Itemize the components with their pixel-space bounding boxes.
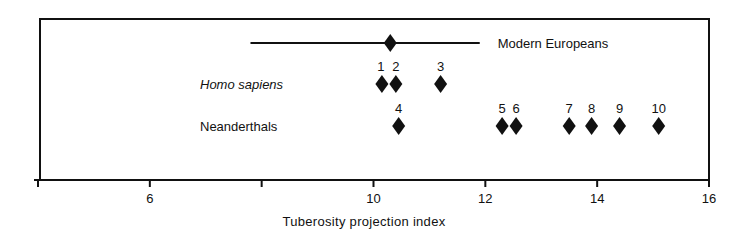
diamond-marker	[563, 117, 576, 135]
diamond-marker	[375, 75, 388, 93]
diamond-marker	[392, 117, 405, 135]
tuberosity-chart: 610121416 Modern EuropeansHomo sapiens12…	[0, 0, 751, 247]
x-axis: 610121416	[34, 180, 716, 206]
x-tick-label: 12	[478, 191, 492, 206]
point-number-label: 8	[588, 101, 595, 116]
series-label: Modern Europeans	[498, 36, 609, 51]
point-number-label: 9	[616, 101, 623, 116]
point-number-label: 10	[651, 101, 665, 116]
diamond-marker	[389, 75, 402, 93]
point-number-label: 4	[395, 101, 402, 116]
series-label: Neanderthals	[200, 119, 278, 134]
point-number-label: 7	[566, 101, 573, 116]
diamond-marker	[585, 117, 598, 135]
series-modern-europeans: Modern Europeans	[250, 34, 608, 52]
series-neanderthals: Neanderthals45678910	[200, 101, 666, 135]
diamond-marker	[496, 117, 509, 135]
point-number-label: 3	[437, 59, 444, 74]
diamond-marker	[652, 117, 665, 135]
diamond-marker	[434, 75, 447, 93]
diamond-marker	[613, 117, 626, 135]
mean-diamond-marker	[384, 34, 397, 52]
x-tick-label: 6	[146, 191, 153, 206]
series-layer: Modern EuropeansHomo sapiens123Neanderth…	[200, 34, 666, 135]
diamond-marker	[510, 117, 523, 135]
point-number-label: 6	[512, 101, 519, 116]
x-tick-label: 14	[590, 191, 604, 206]
series-homo-sapiens: Homo sapiens123	[200, 59, 447, 93]
point-number-label: 2	[392, 59, 399, 74]
point-number-label: 1	[377, 59, 384, 74]
x-tick-label: 16	[702, 191, 716, 206]
x-tick-label: 10	[366, 191, 380, 206]
point-number-label: 5	[498, 101, 505, 116]
series-label: Homo sapiens	[200, 77, 284, 92]
x-axis-title: Tuberosity projection index	[283, 214, 446, 229]
